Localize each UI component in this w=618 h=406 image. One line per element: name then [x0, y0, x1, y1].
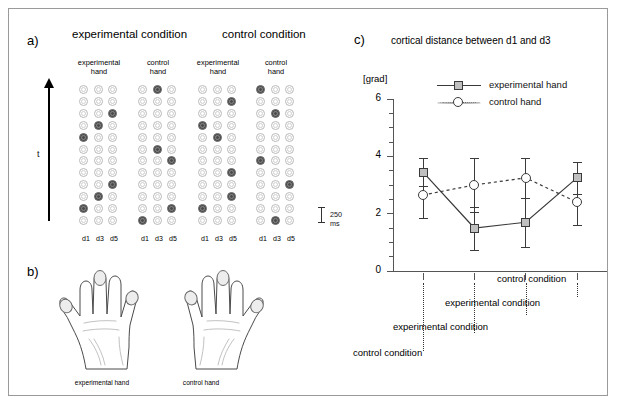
stimulus-dot-ring [155, 158, 160, 163]
stimulus-dot-active [271, 216, 280, 225]
stimulus-dot-ring [81, 111, 86, 116]
stimulus-dot-inactive [79, 192, 88, 201]
stimulus-dot-ring [258, 218, 263, 223]
stimulus-dot-inactive [108, 97, 117, 106]
stimulus-dot-ring [155, 135, 160, 140]
stimulus-dot-inactive [198, 133, 207, 142]
scalebar-cap-bottom [318, 222, 325, 223]
stimulus-dot-inactive [285, 109, 294, 118]
stimulus-dot-ring [81, 206, 86, 211]
digit-label-d5: d5 [107, 235, 121, 242]
stimulus-dot-inactive [285, 145, 294, 154]
stimulus-dot-ring [110, 99, 115, 104]
stimulus-dot-inactive [271, 145, 280, 154]
stimulus-dot-active [167, 204, 176, 213]
stimulus-dot-ring [229, 206, 234, 211]
stimulus-dot-inactive [167, 180, 176, 189]
stimulus-matrix-experimental-condition-experimental-hand [79, 85, 121, 231]
stimulus-dot-ring [155, 147, 160, 152]
stimulus-dot-ring [96, 123, 101, 128]
stimulus-dot-ring [273, 170, 278, 175]
stimulus-dot-active [94, 192, 103, 201]
digit-labels-matrix-2: d1d3d5 [138, 235, 180, 242]
stimulus-dot-ring [96, 158, 101, 163]
stimulus-dot-ring [200, 206, 205, 211]
stimulus-dot-inactive [94, 85, 103, 94]
stimulus-dot-ring [287, 111, 292, 116]
stimulus-dot-ring [258, 87, 263, 92]
stimulus-dot-ring [96, 182, 101, 187]
stimulus-dot-inactive [271, 204, 280, 213]
stimulus-dot-inactive [79, 216, 88, 225]
stimulus-dot-ring [140, 194, 145, 199]
chart-errorbar-cap-top [419, 158, 428, 159]
stimulus-dot-active [256, 85, 265, 94]
stimulus-dot-ring [273, 99, 278, 104]
stimulus-dot-inactive [138, 121, 147, 130]
stimulus-dot-inactive [227, 109, 236, 118]
stimulus-dot-inactive [198, 97, 207, 106]
stimulus-dot-inactive [198, 85, 207, 94]
stimulus-dot-ring [169, 158, 174, 163]
digit-label-d3: d3 [212, 235, 226, 242]
stimulus-dot-ring [110, 123, 115, 128]
stimulus-dot-ring [110, 194, 115, 199]
stimulus-dot-ring [215, 170, 220, 175]
panel-b-label: b) [27, 265, 39, 280]
digit-label-d5: d5 [226, 235, 240, 242]
chart-line-experimental-hand [423, 172, 577, 228]
stimulus-dot-ring [273, 123, 278, 128]
stimulus-dot-inactive [227, 85, 236, 94]
stimulus-dot-ring [215, 135, 220, 140]
stimulus-dot-inactive [94, 180, 103, 189]
stimulus-dot-ring [110, 182, 115, 187]
stimulus-dot-inactive [271, 121, 280, 130]
stimulus-dot-ring [229, 87, 234, 92]
stimulus-dot-ring [215, 182, 220, 187]
stimulus-dot-inactive [256, 97, 265, 106]
stimulus-dot-ring [287, 218, 292, 223]
stimulus-dot-ring [81, 87, 86, 92]
stimulus-dot-inactive [213, 168, 222, 177]
stimulus-dot-ring [96, 87, 101, 92]
stimulus-dot-ring [287, 170, 292, 175]
digit-label-d3: d3 [93, 235, 107, 242]
stimulus-dot-inactive [256, 180, 265, 189]
stimulus-dot-ring [229, 194, 234, 199]
stimulus-dot-ring [229, 182, 234, 187]
stimulus-dot-ring [215, 123, 220, 128]
stimulus-dot-inactive [285, 192, 294, 201]
stimulus-dot-active [153, 145, 162, 154]
stimulus-dot-inactive [94, 216, 103, 225]
stimulus-dot-ring [140, 99, 145, 104]
stimulus-dot-ring [258, 99, 263, 104]
stimulus-dot-ring [169, 182, 174, 187]
stimulus-dot-ring [169, 170, 174, 175]
stimulus-dot-inactive [138, 85, 147, 94]
digit-label-d5: d5 [166, 235, 180, 242]
matrix-title-4-line2: hand [248, 68, 304, 76]
stimulus-dot-ring [110, 87, 115, 92]
stimulus-dot-ring [110, 170, 115, 175]
digit-label-d5: d5 [284, 235, 298, 242]
stimulus-dot-inactive [153, 168, 162, 177]
stimulus-dot-active [138, 216, 147, 225]
stimulus-dot-ring [81, 194, 86, 199]
stimulus-dot-inactive [138, 156, 147, 165]
stimulus-dot-inactive [213, 121, 222, 130]
stimulus-dot-inactive [153, 109, 162, 118]
stimulus-dot-ring [81, 218, 86, 223]
stimulus-dot-ring [273, 182, 278, 187]
stimulus-dot-ring [229, 158, 234, 163]
stimulus-dot-ring [169, 147, 174, 152]
stimulus-dot-inactive [271, 192, 280, 201]
stimulus-dot-active [213, 133, 222, 142]
stimulus-dot-ring [140, 123, 145, 128]
stimulus-dot-inactive [227, 204, 236, 213]
chart-marker-square-3 [573, 173, 582, 182]
chart-marker-circle-0 [418, 190, 428, 200]
stimulus-dot-ring [229, 135, 234, 140]
stimulus-dot-ring [169, 87, 174, 92]
stimulus-dot-active [198, 204, 207, 213]
stimulus-dot-active [108, 180, 117, 189]
